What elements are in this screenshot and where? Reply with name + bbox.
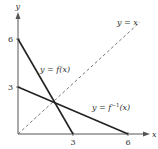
y-axis-label: y bbox=[15, 2, 21, 11]
f-inverse-line bbox=[18, 87, 128, 134]
inverse-function-diagram: x y 3 6 3 6 y = x y = f(x) y = f−1(x) bbox=[0, 0, 158, 149]
x-tick-label-6: 6 bbox=[126, 138, 131, 147]
identity-label: y = x bbox=[116, 18, 138, 27]
f-inverse-label: y = f−1(x) bbox=[91, 102, 130, 112]
x-axis-arrow-icon bbox=[143, 132, 150, 137]
x-axis-label: x bbox=[152, 130, 157, 139]
y-axis-arrow-icon bbox=[16, 12, 21, 19]
f-line bbox=[18, 39, 73, 134]
identity-line bbox=[18, 22, 140, 134]
f-label: y = f(x) bbox=[39, 65, 70, 74]
y-tick-label-3: 3 bbox=[8, 83, 13, 92]
x-tick-label-3: 3 bbox=[71, 138, 76, 147]
y-tick-label-6: 6 bbox=[8, 35, 13, 44]
